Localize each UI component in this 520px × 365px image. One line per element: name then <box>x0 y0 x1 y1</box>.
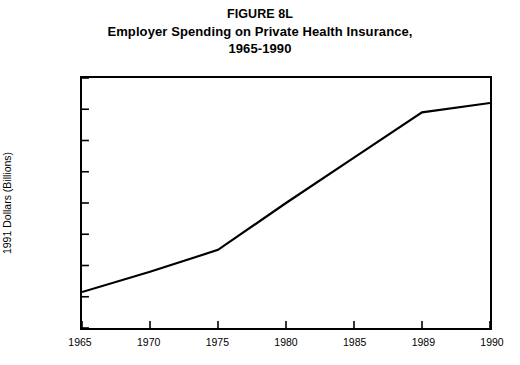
x-tick-label: 1970 <box>137 336 160 348</box>
x-tick-label: 1965 <box>68 336 91 348</box>
x-tick-label: 1980 <box>274 336 297 348</box>
chart-title-main: Employer Spending on Private Health Insu… <box>0 23 520 40</box>
chart-title-period: 1965-1990 <box>0 40 520 57</box>
x-tick-label: 1990 <box>480 336 503 348</box>
chart-title-block: FIGURE 8L Employer Spending on Private H… <box>0 6 520 57</box>
figure-8l-chart: FIGURE 8L Employer Spending on Private H… <box>0 0 520 365</box>
x-tick-label: 1975 <box>206 336 229 348</box>
y-axis-title: 1991 Dollars (Billions) <box>0 76 18 330</box>
figure-number: FIGURE 8L <box>0 6 520 23</box>
x-tick-label: 1989 <box>412 336 435 348</box>
plot-area: 020406080100120140160 <box>80 76 492 330</box>
x-tick-label: 1985 <box>343 336 366 348</box>
y-axis-tick-labels: 020406080100120140160 <box>82 78 490 328</box>
